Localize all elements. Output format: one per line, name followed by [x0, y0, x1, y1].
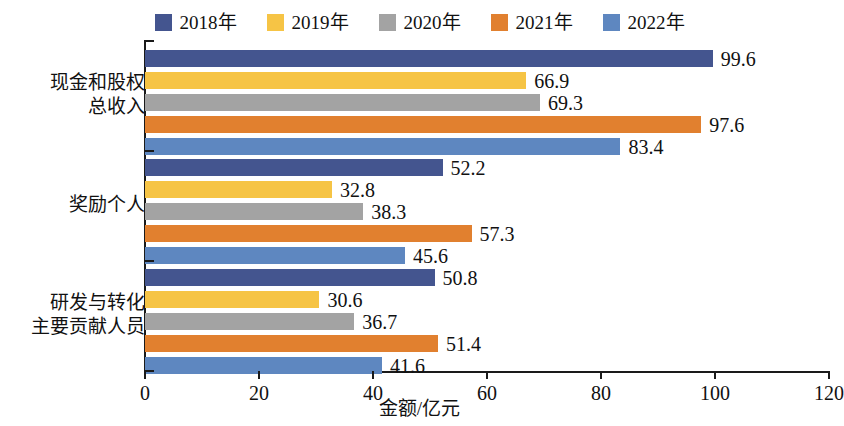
bar: [145, 357, 382, 374]
y-axis-tick: [145, 40, 154, 42]
legend-label: 2021年: [516, 13, 573, 32]
bar-row: 38.3: [145, 203, 829, 220]
bar-value-label: 30.6: [327, 289, 362, 309]
bar-value-label: 41.6: [390, 355, 425, 375]
bar-value-label: 57.3: [480, 223, 515, 243]
bar: [145, 138, 620, 155]
legend-label: 2022年: [628, 13, 685, 32]
bar-value-label: 38.3: [371, 201, 406, 221]
bar-value-label: 50.8: [443, 267, 478, 287]
legend-label: 2019年: [292, 13, 349, 32]
legend-swatch-icon: [379, 14, 396, 31]
legend-item: 2022年: [603, 13, 685, 32]
x-axis-tick: [828, 371, 830, 379]
bar: [145, 269, 435, 286]
bar-row: 52.2: [145, 159, 829, 176]
legend-swatch-icon: [155, 14, 172, 31]
bar-value-label: 51.4: [446, 333, 481, 353]
bar-row: 32.8: [145, 181, 829, 198]
category-label: 研发与转化主要贡献人员: [31, 291, 145, 339]
category-label-line: 主要贡献人员: [31, 315, 145, 339]
legend-swatch-icon: [491, 14, 508, 31]
bar-row: 30.6: [145, 291, 829, 308]
x-axis-tick: [144, 371, 146, 379]
bar-value-label: 36.7: [362, 311, 397, 331]
bar-row: 69.3: [145, 94, 829, 111]
x-axis-tick: [714, 371, 716, 379]
bar: [145, 335, 438, 352]
bar-value-label: 83.4: [628, 136, 663, 156]
category-label-line: 现金和股权: [50, 71, 145, 95]
bar-row: 51.4: [145, 335, 829, 352]
bar-row: 50.8: [145, 269, 829, 286]
bar: [145, 291, 319, 308]
bar-value-label: 32.8: [340, 179, 375, 199]
bar: [145, 247, 405, 264]
legend-item: 2020年: [379, 13, 461, 32]
bar-row: 45.6: [145, 247, 829, 264]
bar-row: 66.9: [145, 72, 829, 89]
bar: [145, 50, 713, 67]
category-label-line: 研发与转化: [31, 291, 145, 315]
bar-row: 99.6: [145, 50, 829, 67]
bar-row: 83.4: [145, 138, 829, 155]
bar-value-label: 69.3: [548, 92, 583, 112]
bar: [145, 313, 354, 330]
x-axis-tick: [600, 371, 602, 379]
category-label-line: 总收入: [50, 95, 145, 119]
x-axis-tick: [258, 371, 260, 379]
bar-row: 97.6: [145, 116, 829, 133]
plot-area: 99.666.969.397.683.452.232.838.357.345.6…: [145, 40, 829, 372]
legend-swatch-icon: [603, 14, 620, 31]
chart-legend: 2018年2019年2020年2021年2022年: [0, 8, 839, 36]
legend-label: 2020年: [404, 13, 461, 32]
bar-value-label: 99.6: [721, 48, 756, 68]
legend-item: 2019年: [267, 13, 349, 32]
legend-label: 2018年: [180, 13, 237, 32]
category-label: 现金和股权总收入: [50, 71, 145, 119]
bar: [145, 72, 526, 89]
bar: [145, 94, 540, 111]
bar-row: 36.7: [145, 313, 829, 330]
x-axis-tick: [486, 371, 488, 379]
x-axis-title: 金额/亿元: [0, 398, 839, 420]
bar-row: 57.3: [145, 225, 829, 242]
bar: [145, 159, 443, 176]
legend-item: 2018年: [155, 13, 237, 32]
category-label: 奖励个人: [69, 193, 145, 217]
bar: [145, 225, 472, 242]
bar: [145, 116, 701, 133]
y-axis-tick: [145, 260, 154, 262]
bar-value-label: 66.9: [534, 70, 569, 90]
bar-value-label: 97.6: [709, 114, 744, 134]
bar: [145, 203, 363, 220]
bar: [145, 181, 332, 198]
y-axis-tick: [145, 370, 154, 372]
bar-value-label: 45.6: [413, 245, 448, 265]
y-axis-tick: [145, 150, 154, 152]
bar-value-label: 52.2: [451, 157, 486, 177]
category-label-line: 奖励个人: [69, 193, 145, 217]
legend-swatch-icon: [267, 14, 284, 31]
legend-item: 2021年: [491, 13, 573, 32]
x-axis-tick: [372, 371, 374, 379]
